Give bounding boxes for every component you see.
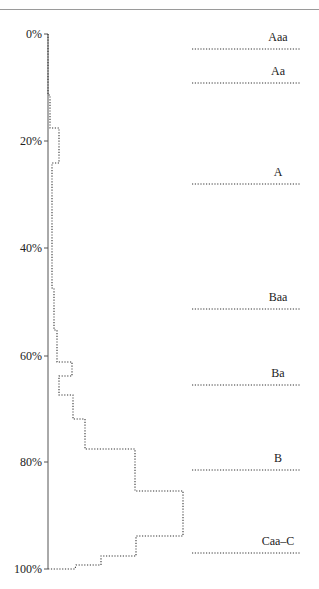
rating-label-b: B <box>248 451 308 465</box>
tick-label-0: 0% <box>2 27 42 41</box>
tick-label-60: 60% <box>2 349 42 363</box>
rating-label-a: A <box>248 165 308 179</box>
rating-label-caa-c: Caa–C <box>248 534 308 548</box>
y-axis-ticks <box>44 34 48 569</box>
rating-label-aaa: Aaa <box>248 30 308 44</box>
tick-label-20: 20% <box>2 134 42 148</box>
tick-label-80: 80% <box>2 455 42 469</box>
tick-label-40: 40% <box>2 241 42 255</box>
distribution-step-line <box>48 34 183 569</box>
rating-label-aa: Aa <box>248 64 308 78</box>
rating-label-ba: Ba <box>248 366 308 380</box>
rating-label-baa: Baa <box>248 290 308 304</box>
tick-label-100: 100% <box>2 562 42 576</box>
